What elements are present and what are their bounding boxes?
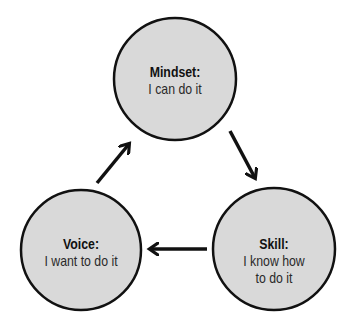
node-title-mindset: Mindset: (126, 63, 224, 80)
node-desc-mindset: I can do it (126, 80, 224, 97)
arrow-voice-to-mindset (97, 144, 129, 183)
node-label-skill: Skill: I know how to do it (225, 235, 323, 286)
node-title-skill: Skill: (225, 235, 323, 252)
node-desc-voice: I want to do it (32, 252, 130, 269)
arrow-mindset-to-skill (230, 131, 255, 178)
node-label-voice: Voice: I want to do it (32, 235, 130, 269)
node-label-mindset: Mindset: I can do it (126, 63, 224, 97)
node-desc-skill-line2: to do it (225, 269, 323, 286)
node-desc-skill-line1: I know how (225, 252, 323, 269)
node-title-voice: Voice: (32, 235, 130, 252)
